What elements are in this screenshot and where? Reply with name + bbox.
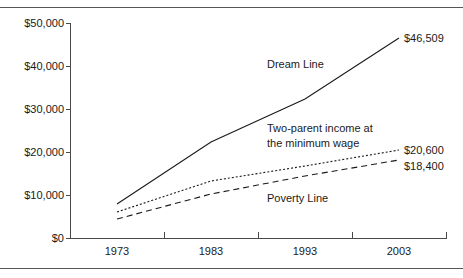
annotation-minimum-wage-line2: the minimum wage (267, 137, 359, 149)
y-tick-label-2: $20,000 (24, 146, 64, 158)
x-tick-label-1973: 1973 (105, 245, 129, 257)
annotation-poverty-line: Poverty Line (267, 192, 328, 204)
x-tick-label-1983: 1983 (199, 245, 223, 257)
line-chart: $0 $10,000 $20,000 $30,000 $40,000 $50,0… (0, 8, 463, 266)
annotation-dream-line: Dream Line (267, 58, 324, 70)
y-tick-label-4: $40,000 (24, 60, 64, 72)
y-tick-label-5: $50,000 (24, 17, 64, 29)
y-tick-label-3: $30,000 (24, 103, 64, 115)
series-line-poverty-line (117, 160, 399, 219)
bottom-divider-rule (0, 268, 463, 269)
chart-svg: $0 $10,000 $20,000 $30,000 $40,000 $50,0… (0, 8, 463, 266)
end-label-minimum-wage: $20,600 (404, 144, 444, 156)
x-tick-label-1993: 1993 (293, 245, 317, 257)
end-label-poverty-line: $18,400 (404, 160, 444, 172)
figure-page: $0 $10,000 $20,000 $30,000 $40,000 $50,0… (0, 0, 463, 278)
annotation-minimum-wage-line1: Two-parent income at (267, 122, 373, 134)
y-tick-label-0: $0 (52, 232, 64, 244)
series-line-dream-line (117, 38, 399, 204)
series-line-two-parent-minimum-wage (117, 150, 399, 212)
y-tick-label-1: $10,000 (24, 189, 64, 201)
end-label-dream-line: $46,509 (404, 32, 444, 44)
x-tick-label-2003: 2003 (387, 245, 411, 257)
